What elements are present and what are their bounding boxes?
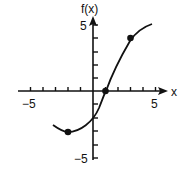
y-max-label: 5 [80, 19, 87, 33]
point-min [65, 129, 72, 136]
function-curve [53, 24, 152, 132]
x-max-label: 5 [151, 97, 158, 111]
point-x-intercept [102, 88, 109, 95]
y-axis-label: f(x) [81, 2, 98, 16]
y-min-label: −5 [74, 152, 88, 166]
x-axis-label: x [171, 85, 177, 99]
x-min-label: −5 [22, 97, 36, 111]
function-graph: f(x) 5 −5 −5 5 x [0, 0, 188, 177]
point-upper [127, 35, 134, 42]
